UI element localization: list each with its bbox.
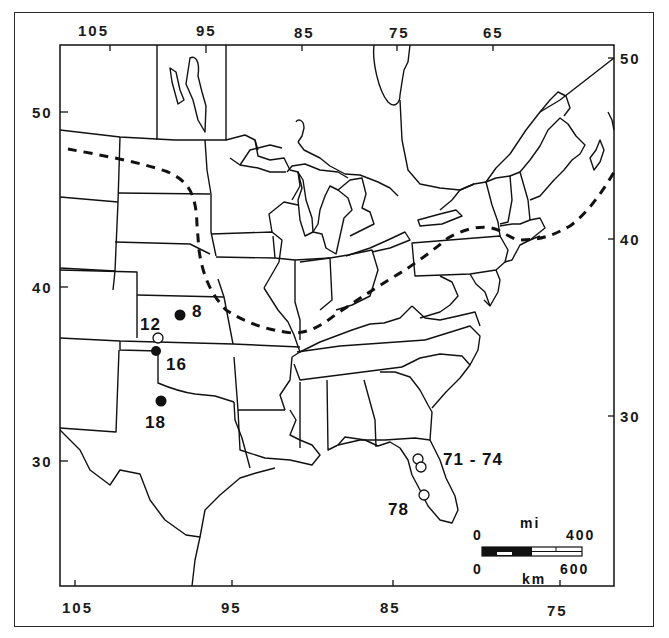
map-figure: 105 95 85 75 65 105 95 85 75 50 40 30 50…	[0, 0, 669, 638]
lon-label-top-65: 65	[483, 24, 504, 41]
lon-label-top-75: 75	[389, 24, 410, 41]
scale-mi-start: 0	[473, 527, 483, 543]
bottom-ticks	[75, 580, 560, 586]
site-label-78: 78	[388, 500, 409, 519]
lon-label-top-95: 95	[196, 22, 217, 39]
top-ticks	[110, 45, 493, 53]
lat-label-right-30: 30	[620, 408, 641, 425]
lon-label-bottom-95: 95	[221, 599, 242, 616]
scale-unit-km: km	[522, 571, 546, 587]
map-canvas: 105 95 85 75 65 105 95 85 75 50 40 30 50…	[0, 0, 669, 638]
site-label-71-74: 71 - 74	[443, 450, 503, 469]
site-label-8: 8	[192, 302, 202, 321]
range-boundary-line	[68, 149, 614, 333]
lat-label-right-40: 40	[620, 231, 641, 248]
site-marker-16-filled	[151, 346, 161, 356]
site-label-12: 12	[140, 315, 161, 334]
scale-unit-mi: mi	[520, 515, 540, 531]
right-ticks	[608, 58, 614, 416]
site-marker-78-open	[419, 490, 429, 500]
site-marker-74-open	[416, 462, 426, 472]
scale-bar: mi 0 400 0 km 600	[473, 515, 595, 587]
site-marker-8-filled	[175, 310, 186, 321]
site-marker-12-open	[153, 333, 163, 343]
left-ticks	[60, 112, 68, 461]
lon-label-bottom-75: 75	[547, 602, 568, 619]
scale-km-start: 0	[473, 561, 483, 577]
lon-label-bottom-85: 85	[380, 599, 401, 616]
lat-label-right-50: 50	[620, 50, 641, 67]
lon-label-bottom-105: 105	[62, 599, 93, 616]
site-label-16: 16	[166, 355, 187, 374]
lat-label-left-40: 40	[32, 279, 53, 296]
scale-mi-end: 400	[566, 527, 595, 543]
site-label-18: 18	[145, 413, 166, 432]
lat-label-left-30: 30	[32, 453, 53, 470]
lat-label-left-50: 50	[32, 104, 53, 121]
site-marker-18-filled	[156, 396, 167, 407]
lon-label-top-105: 105	[78, 22, 109, 39]
scale-km-end: 600	[560, 561, 589, 577]
lon-label-top-85: 85	[294, 24, 315, 41]
site-markers	[151, 310, 429, 501]
